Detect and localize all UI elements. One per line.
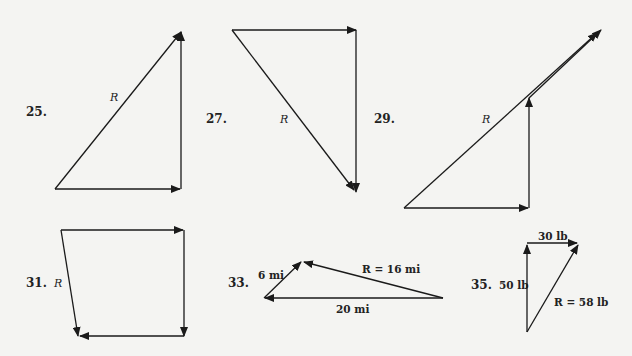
diagram-29: 29. R <box>374 30 601 208</box>
diagram-33: 33. 6 mi 20 mi R = 16 mi <box>228 262 443 315</box>
vector-label: 50 lb <box>499 279 529 291</box>
resultant-label: R = 58 lb <box>554 296 608 308</box>
diagram-35: 35. 50 lb 30 lb R = 58 lb <box>471 230 608 332</box>
vector-label: 20 mi <box>336 303 369 315</box>
resultant-arrow <box>55 32 181 189</box>
vector-arrow <box>529 30 601 98</box>
diagram-31: 31. R <box>26 230 184 336</box>
resultant-arrow <box>404 33 597 208</box>
problem-number: 25. <box>26 105 47 119</box>
problem-number: 27. <box>206 112 227 126</box>
diagram-27: 27. R <box>206 30 356 192</box>
resultant-arrow <box>61 230 78 336</box>
resultant-arrow <box>232 30 354 190</box>
resultant-arrow <box>527 245 578 332</box>
vector-diagrams: 25. R 27. R 29. R 31. R 33. 6 mi 20 <box>0 0 632 356</box>
resultant-label: R <box>279 113 288 126</box>
diagram-25: 25. R <box>26 32 181 189</box>
resultant-label: R <box>109 91 118 104</box>
resultant-label: R = 16 mi <box>362 263 420 275</box>
problem-number: 33. <box>228 276 249 290</box>
problem-number: 35. <box>471 278 492 292</box>
resultant-label: R <box>481 113 490 126</box>
problem-number: 31. <box>26 276 47 290</box>
vector-label: 30 lb <box>538 230 568 242</box>
vector-label: 6 mi <box>258 269 284 281</box>
resultant-label: R <box>53 277 62 290</box>
problem-number: 29. <box>374 112 395 126</box>
